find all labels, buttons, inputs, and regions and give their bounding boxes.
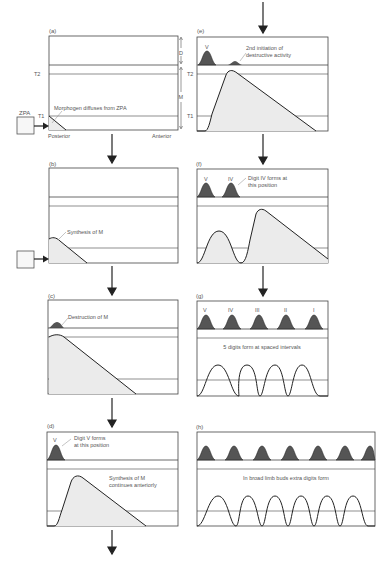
annotation: 5 digits form at spaced intervals [223,344,301,350]
digit-label: V [205,44,209,50]
digit-label-iv: IV [228,176,234,182]
annotation-2: at this position [74,442,109,448]
panel-a: (a) Morphogen diffuses from ZPA T2 T1 Po… [17,28,184,139]
panel-label: (e) [197,28,204,34]
panel-c: (c) Destruction of M [48,293,178,394]
zpa-box [17,117,34,134]
digit-label-v: V [204,176,208,182]
digit-label: V [203,307,207,313]
d-label: D [179,50,183,56]
panel-b: (b) Synthesis of M [17,161,178,268]
zpa-label: ZPA [19,110,30,116]
zpa-box [17,251,34,268]
panel-h: (h) In broad limb buds extra digits form [196,424,375,526]
panel-e: (e) V 2nd initiation of destructive acti… [187,28,328,131]
annotation: Synthesis of M [67,229,103,235]
t2-label: T2 [34,71,40,77]
annotation-1: Digit IV forms at [248,175,288,181]
t2-label: T2 [187,71,193,77]
m-label: M [179,94,184,100]
annotation: Morphogen diffuses from ZPA [54,105,127,111]
panel-label: (c) [48,293,55,299]
annotation-1: Digit V forms [74,435,106,441]
annotation-4: continues anteriorly [109,482,157,488]
annotation: In broad limb buds extra digits form [243,475,329,481]
panel-label: (b) [49,161,56,167]
t1-label: T1 [187,113,193,119]
panel-d: (d) V Digit V forms at this position Syn… [47,423,178,526]
t1-label: T1 [38,113,44,119]
arrow-right-icon [43,123,49,130]
digit-label: V [53,437,57,443]
digit-label: II [284,307,288,313]
annotation-2: this position [248,182,277,188]
panel-label: (g) [196,293,203,299]
panel-label: (a) [49,28,56,34]
digit-formation-diagram: (a) Morphogen diffuses from ZPA T2 T1 Po… [0,0,392,563]
panel-label: (f) [196,161,202,167]
posterior-label: Posterior [48,133,70,139]
digit-label: IV [228,307,234,313]
anterior-label: Anterior [152,133,171,139]
digit-label: III [255,307,260,313]
arrow-right-icon [43,256,49,263]
annotation-1: 2nd initiation of [246,45,283,51]
panel-label: (d) [47,423,54,429]
annotation: Destruction of M [68,314,108,320]
panel-g: (g) V IV III II I 5 digits form at space… [196,293,328,396]
annotation-3: Synthesis of M [109,475,145,481]
panel-label: (h) [196,424,203,430]
annotation-2: destructive activity [246,52,291,58]
panel-f: (f) V IV Digit IV forms at this position [196,161,328,263]
